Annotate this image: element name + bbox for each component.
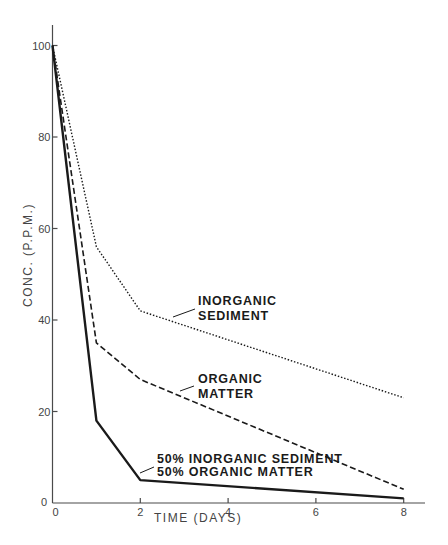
series-line-inorganic-sediment xyxy=(53,46,404,398)
y-ticks: 20406080100 xyxy=(32,40,57,418)
annotation-mixed: 50% INORGANIC SEDIMENT 50% ORGANIC MATTE… xyxy=(140,452,343,479)
series-line-50-inorganic-sediment-50-organic-matter xyxy=(53,46,404,499)
axes xyxy=(53,25,426,503)
x-tick-label: 2 xyxy=(137,506,143,518)
series-line-organic-matter xyxy=(53,46,404,490)
label-organic-line2: MATTER xyxy=(198,387,254,401)
annotation-inorganic-sediment: INORGANIC SEDIMENT xyxy=(173,294,277,323)
label-organic-line1: ORGANIC xyxy=(198,372,263,386)
leader-line-mixed xyxy=(140,467,154,473)
y-tick-label: 100 xyxy=(32,40,50,52)
x-tick-label: 6 xyxy=(313,506,319,518)
label-inorganic-line1: INORGANIC xyxy=(198,294,277,308)
y-tick-label: 20 xyxy=(38,406,50,418)
concentration-line-chart: 20406080100 02468 0 TIME (DAYS) CONC. (P… xyxy=(0,0,448,545)
y-tick-label: 80 xyxy=(38,131,50,143)
y-origin-label: 0 xyxy=(41,496,47,508)
label-inorganic-line2: SEDIMENT xyxy=(198,309,269,323)
y-tick-label: 40 xyxy=(38,314,50,326)
leader-line-organic xyxy=(180,386,194,391)
leader-line-inorganic xyxy=(173,309,195,317)
x-tick-label: 0 xyxy=(52,506,58,518)
x-tick-label: 8 xyxy=(401,506,407,518)
series-lines xyxy=(53,46,404,499)
label-mixed-line1: 50% INORGANIC SEDIMENT xyxy=(157,452,343,466)
annotation-organic-matter: ORGANIC MATTER xyxy=(180,372,263,401)
y-axis-title: CONC. (P.P.M.) xyxy=(21,203,35,307)
y-tick-label: 60 xyxy=(38,223,50,235)
x-axis-title: TIME (DAYS) xyxy=(154,511,242,525)
label-mixed-line2: 50% ORGANIC MATTER xyxy=(157,465,314,479)
